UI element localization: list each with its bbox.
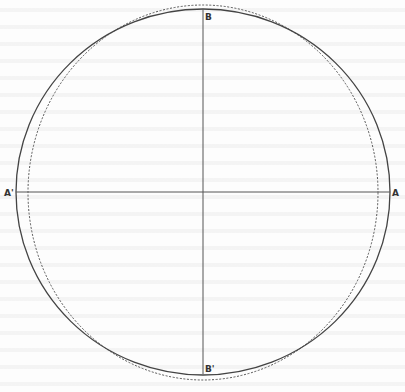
label-a-prime: A' xyxy=(4,188,14,198)
book-page: B B' A' A xyxy=(0,0,405,392)
circle-diagram: B B' A' A xyxy=(0,0,405,392)
label-b: B xyxy=(205,12,212,22)
label-a: A xyxy=(392,188,399,198)
label-b-prime: B' xyxy=(205,364,215,374)
